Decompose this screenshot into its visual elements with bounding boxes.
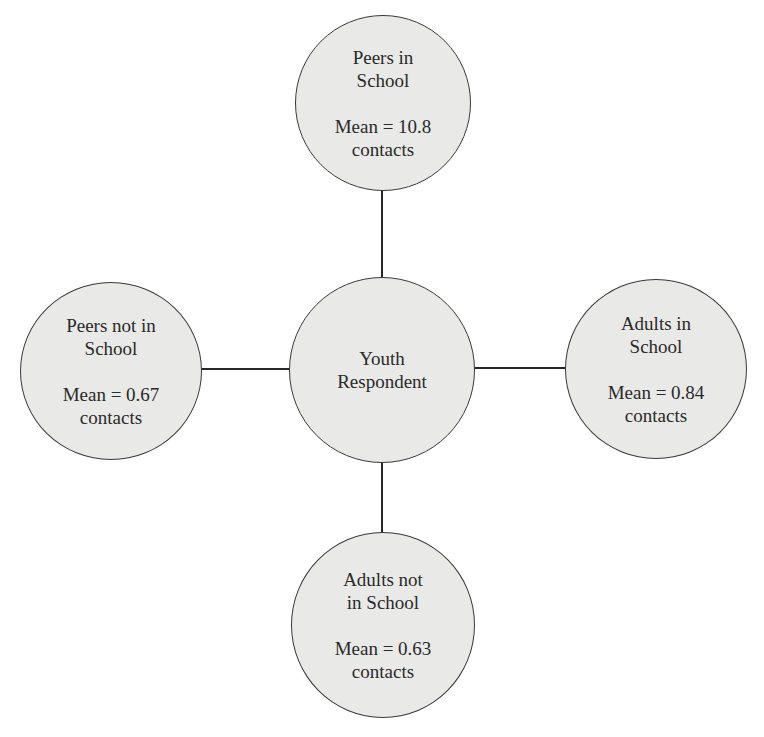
label-line: Respondent: [337, 370, 427, 393]
node-peers-in-school: Peers in School Mean = 10.8 contacts: [295, 15, 471, 191]
node-mean-stat: Mean = 0.67 contacts: [63, 383, 160, 429]
node-mean-stat: Mean = 10.8 contacts: [335, 115, 432, 161]
ego-network-diagram: Peers in School Mean = 10.8 contacts Pee…: [0, 0, 764, 737]
node-adults-in-school: Adults in School Mean = 0.84 contacts: [565, 279, 747, 459]
node-label: Peers not in School: [66, 314, 156, 360]
mean-value: Mean = 10.8: [335, 115, 432, 138]
edge-center-to-adults-in-school: [472, 367, 567, 369]
label-line: Youth: [337, 347, 427, 370]
label-line: Adults in: [621, 312, 691, 335]
label-line: Peers not in: [66, 314, 156, 337]
node-mean-stat: Mean = 0.84 contacts: [608, 381, 705, 427]
mean-value: Mean = 0.63: [335, 637, 432, 660]
edge-center-to-peers-in-school: [381, 188, 383, 279]
node-adults-not-in-school: Adults not in School Mean = 0.63 contact…: [291, 532, 475, 718]
mean-unit: contacts: [608, 404, 705, 427]
mean-unit: contacts: [335, 138, 432, 161]
mean-unit: contacts: [63, 406, 160, 429]
mean-value: Mean = 0.84: [608, 381, 705, 404]
mean-value: Mean = 0.67: [63, 383, 160, 406]
node-mean-stat: Mean = 0.63 contacts: [335, 637, 432, 683]
label-line: in School: [343, 591, 423, 614]
label-line: School: [66, 337, 156, 360]
node-peers-not-in-school: Peers not in School Mean = 0.67 contacts: [20, 282, 202, 460]
label-line: Adults not: [343, 568, 423, 591]
node-label: Peers in School: [353, 46, 414, 92]
edge-center-to-adults-not-in-school: [381, 461, 383, 534]
node-label: Adults in School: [621, 312, 691, 358]
node-label: Adults not in School: [343, 568, 423, 614]
node-label: Youth Respondent: [337, 347, 427, 393]
label-line: Peers in: [353, 46, 414, 69]
label-line: School: [353, 69, 414, 92]
mean-unit: contacts: [335, 660, 432, 683]
edge-center-to-peers-not-in-school: [200, 368, 292, 370]
label-line: School: [621, 335, 691, 358]
node-youth-respondent: Youth Respondent: [289, 277, 475, 463]
